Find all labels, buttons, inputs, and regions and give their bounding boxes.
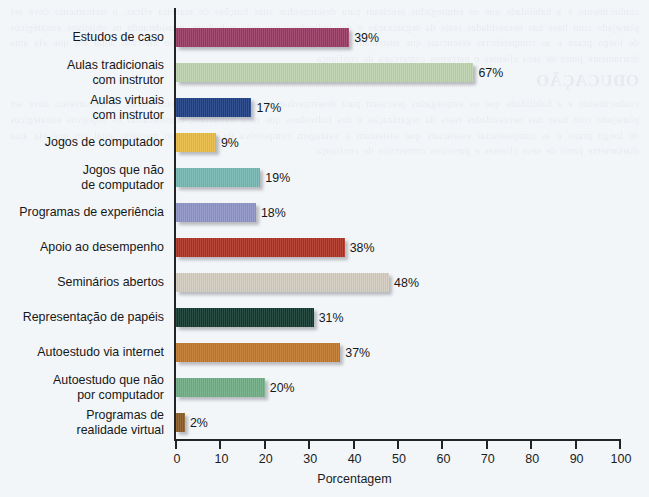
bar [176,203,256,222]
bar [176,63,473,82]
bar [176,273,389,292]
bar [176,98,251,117]
bar-fill [176,133,216,152]
bar-fill [176,378,265,397]
bar-row: Programas de experiência18% [0,195,649,230]
x-axis-tick [441,441,443,449]
x-axis-tick [575,441,577,449]
x-axis-tick-label: 70 [468,452,508,466]
horizontal-bar-chart: Estudos de caso39%Aulas tradicionais com… [0,0,649,497]
bar [176,28,349,47]
x-axis-tick [486,441,488,449]
bar [176,413,185,432]
x-axis-tick-label: 90 [557,452,597,466]
bar [176,133,216,152]
bar [176,343,340,362]
category-label: Autoestudo via internet [0,335,164,370]
bar-fill [176,28,349,47]
bar-row: Estudos de caso39% [0,20,649,55]
category-label: Jogos de computador [0,125,164,160]
bar-fill [176,168,260,187]
bar-value-label: 39% [354,28,379,47]
x-axis-tick [530,441,532,449]
category-label: Programas de experiência [0,195,164,230]
category-label: Seminários abertos [0,265,164,300]
bar-fill [176,63,473,82]
bar-row: Jogos de computador9% [0,125,649,160]
category-label: Estudos de caso [0,20,164,55]
bar-value-label: 31% [319,308,344,327]
bar-row: Apoio ao desempenho38% [0,230,649,265]
x-axis-tick-label: 10 [201,452,241,466]
bar-value-label: 18% [261,203,286,222]
bar-fill [176,273,389,292]
bar-value-label: 67% [478,63,503,82]
bar-fill [176,98,251,117]
bar-fill [176,203,256,222]
bar-row: Seminários abertos48% [0,265,649,300]
x-axis-tick-label: 20 [246,452,286,466]
x-axis-tick [264,441,266,449]
category-label: Representação de papéis [0,300,164,335]
bar-fill [176,238,345,257]
bar [176,378,265,397]
category-label: Apoio ao desempenho [0,230,164,265]
bar-row: Representação de papéis31% [0,300,649,335]
bar-row: Jogos que não de computador19% [0,160,649,195]
category-label: Aulas tradicionais com instrutor [0,55,164,90]
y-axis-line [174,8,176,441]
x-axis-tick-label: 80 [512,452,552,466]
bar [176,168,260,187]
category-label: Jogos que não de computador [0,160,164,195]
x-axis-tick-label: 30 [290,452,330,466]
category-label: Programas de realidade virtual [0,405,164,440]
bar [176,308,314,327]
bar-row: Aulas tradicionais com instrutor67% [0,55,649,90]
bar-fill [176,413,185,432]
x-axis-tick-label: 60 [423,452,463,466]
bar-value-label: 48% [394,273,419,292]
bar-row: Autoestudo que não por computador20% [0,370,649,405]
bar-row: Programas de realidade virtual2% [0,405,649,440]
x-axis-tick-label: 100 [601,452,641,466]
bar-value-label: 38% [350,238,375,257]
x-axis-title: Porcentagem [0,472,649,486]
bar-value-label: 17% [256,98,281,117]
bar-value-label: 2% [190,413,208,432]
bar-fill [176,343,340,362]
bar-value-label: 9% [221,133,239,152]
category-label: Aulas virtuais com instrutor [0,90,164,125]
x-axis-tick-label: 40 [335,452,375,466]
x-axis-tick [308,441,310,449]
x-axis-tick [175,441,177,449]
category-label: Autoestudo que não por computador [0,370,164,405]
x-axis-tick-label: 50 [379,452,419,466]
bar-row: Autoestudo via internet37% [0,335,649,370]
x-axis-tick-label: 0 [157,452,197,466]
bar-fill [176,308,314,327]
bar-value-label: 20% [270,378,295,397]
x-axis-tick [619,441,621,449]
x-axis-tick [397,441,399,449]
bar-value-label: 19% [265,168,290,187]
x-axis-tick [353,441,355,449]
bar [176,238,345,257]
x-axis-tick [219,441,221,449]
bar-value-label: 37% [345,343,370,362]
bar-row: Aulas virtuais com instrutor17% [0,90,649,125]
